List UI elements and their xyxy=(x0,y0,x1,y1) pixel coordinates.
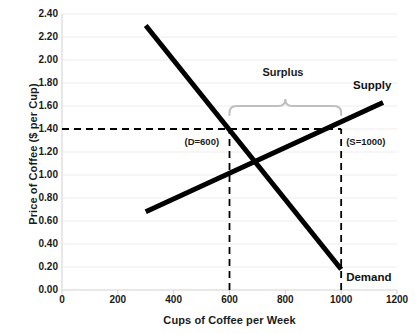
demand-series-label: Demand xyxy=(346,271,391,283)
supply-curve xyxy=(146,103,383,212)
supply-quantity-annotation: (S=1000) xyxy=(346,136,385,147)
x-axis-title: Cups of Coffee per Week xyxy=(62,314,397,326)
x-axis-tick-label: 400 xyxy=(165,294,182,305)
x-axis-tick-label: 0 xyxy=(59,294,65,305)
x-axis-tick-label: 200 xyxy=(109,294,126,305)
surplus-brace-path xyxy=(230,99,342,115)
x-axis-tick-label: 600 xyxy=(221,294,238,305)
supply-demand-chart: Price of Coffee ($ per Cup) 0.000.200.40… xyxy=(0,0,418,334)
x-axis-tick-label: 1200 xyxy=(386,294,408,305)
x-axis-tick-label: 800 xyxy=(277,294,294,305)
plot-canvas xyxy=(0,0,418,334)
x-axis-tick-label: 1000 xyxy=(330,294,352,305)
demand-curve xyxy=(146,26,341,270)
demand-quantity-annotation: (D=600) xyxy=(185,136,220,147)
surplus-label: Surplus xyxy=(263,66,304,78)
series-lines xyxy=(146,26,383,270)
reference-lines xyxy=(62,129,341,290)
surplus-brace-icon xyxy=(230,99,342,115)
supply-series-label: Supply xyxy=(353,79,391,91)
